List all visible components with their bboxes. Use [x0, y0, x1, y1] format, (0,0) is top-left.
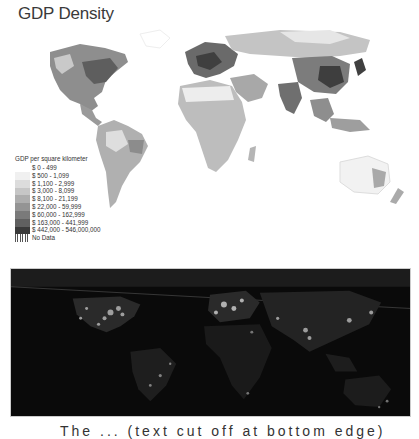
legend-item: $ 442,000 - 546,000,000 [15, 227, 101, 235]
legend-heading: GDP per square kilometer [15, 155, 101, 163]
legend-item: No Data [15, 234, 101, 242]
map-legend: GDP per square kilometer $ 0 - 499 $ 500… [15, 155, 101, 242]
map-title: GDP Density [18, 4, 114, 24]
caption-cutoff: The ... (text cut off at bottom edge) [60, 423, 386, 439]
legend-swatch [15, 219, 30, 227]
nighttime-lights-map [10, 268, 411, 417]
legend-swatch [15, 180, 30, 188]
legend-swatch [15, 172, 30, 180]
legend-swatch [15, 203, 30, 211]
legend-swatch-hatched [15, 234, 30, 242]
legend-swatch [15, 164, 30, 172]
legend-swatch [15, 227, 30, 235]
legend-swatch [15, 188, 30, 196]
legend-swatch [15, 195, 30, 203]
legend-swatch [15, 211, 30, 219]
